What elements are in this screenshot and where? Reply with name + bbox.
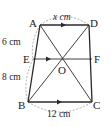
- parallel-arrow-bc-icon: [57, 100, 62, 105]
- label-point-f: F: [94, 53, 100, 65]
- parallel-arrow-ef-icon: [46, 57, 51, 62]
- label-point-e: E: [23, 53, 30, 65]
- length-bc: 12 cm: [47, 109, 71, 119]
- label-point-b: B: [18, 99, 25, 111]
- label-point-c: C: [93, 99, 100, 111]
- length-eb: 8 cm: [2, 72, 21, 82]
- label-point-a: A: [29, 17, 37, 29]
- side-ab: [28, 25, 40, 102]
- side-dc: [89, 25, 92, 102]
- diagonal-ac: [40, 25, 92, 102]
- label-point-o: O: [58, 64, 66, 76]
- parallel-arrow-ad-icon: [61, 23, 66, 28]
- trapezoid-diagram: A D E F O B C x cm 6 cm 8 cm 12 cm: [0, 0, 111, 127]
- length-ae: 6 cm: [2, 37, 21, 47]
- length-ad: x cm: [52, 12, 71, 22]
- label-point-d: D: [90, 17, 98, 29]
